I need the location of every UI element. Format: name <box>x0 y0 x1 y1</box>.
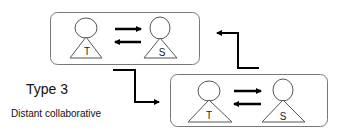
node-head-circle <box>198 81 220 101</box>
bottom-node-s: S <box>262 79 305 122</box>
bottom-node-t: T <box>188 81 232 122</box>
node-head-circle <box>75 18 97 38</box>
diagram-title: Type 3 <box>26 81 68 97</box>
top-group: T S <box>51 13 200 65</box>
node-head-circle <box>273 79 293 101</box>
node-label-s: S <box>280 111 287 122</box>
node-head-circle <box>150 17 170 39</box>
connector-bottom-to-top <box>217 33 259 68</box>
connector-top-to-bottom <box>113 70 159 102</box>
top-node-t: T <box>70 18 102 58</box>
diagram-subtitle: Distant collaborative <box>11 108 101 119</box>
node-label-s: S <box>159 47 166 58</box>
bottom-group: T S <box>171 75 328 127</box>
node-label-t: T <box>84 46 90 57</box>
node-label-t: T <box>206 110 212 121</box>
top-node-s: S <box>144 17 177 58</box>
